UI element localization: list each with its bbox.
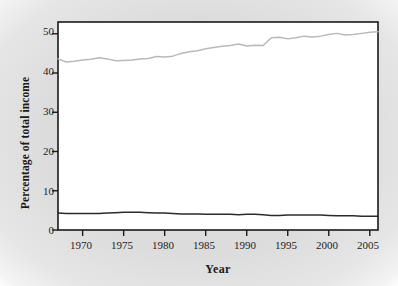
plot-area bbox=[0, 0, 398, 286]
figure: Percentage of total income 50 40 30 20 1… bbox=[0, 0, 398, 286]
plot-background bbox=[58, 22, 378, 230]
chart-screenshot: Percentage of total income 50 40 30 20 1… bbox=[0, 0, 398, 286]
